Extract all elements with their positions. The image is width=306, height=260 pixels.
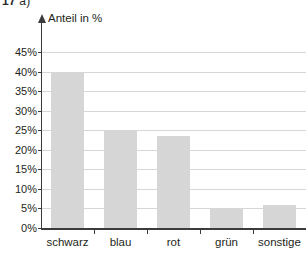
y-axis-tick-labels: 0%5%10%15%20%25%30%35%40%45%	[0, 0, 37, 260]
bar	[263, 205, 296, 228]
bar	[51, 72, 84, 228]
bar	[157, 136, 190, 228]
y-axis-tick-label: 0%	[3, 222, 37, 234]
plot-area	[41, 52, 306, 228]
y-axis-title: Anteil in %	[48, 12, 102, 24]
gridline	[41, 52, 306, 53]
x-axis-tick-label: blau	[110, 236, 132, 248]
y-axis-tick-label: 35%	[3, 85, 37, 97]
y-axis-tick-label: 10%	[3, 183, 37, 195]
x-axis-tick-label: rot	[167, 236, 180, 248]
y-axis-tick-label: 25%	[3, 124, 37, 136]
x-axis-tick-label: sonstige	[258, 236, 301, 248]
bar-chart: 0%5%10%15%20%25%30%35%40%45% Anteil in %…	[0, 0, 306, 260]
y-axis-tick-label: 30%	[3, 105, 37, 117]
y-axis-tick-label: 40%	[3, 66, 37, 78]
x-axis-tick-label: schwarz	[46, 236, 88, 248]
x-axis-tick-mark	[147, 228, 148, 234]
x-axis-tick-mark	[200, 228, 201, 234]
y-axis-line	[41, 22, 42, 229]
y-axis-tick-label: 15%	[3, 163, 37, 175]
bar	[104, 130, 137, 228]
x-axis-tick-label: grün	[215, 236, 238, 248]
x-axis-tick-mark	[94, 228, 95, 234]
y-axis-tick-label: 45%	[3, 46, 37, 58]
x-axis-line	[41, 228, 306, 230]
y-axis-tick-label: 20%	[3, 144, 37, 156]
y-axis-tick-label: 5%	[3, 202, 37, 214]
bar	[210, 208, 243, 228]
x-axis-tick-mark	[253, 228, 254, 234]
